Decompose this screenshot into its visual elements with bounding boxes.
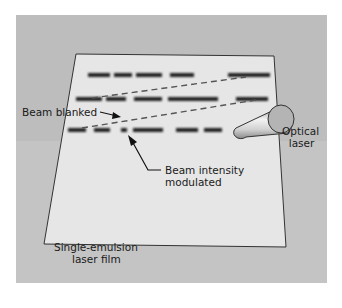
laser-film-diagram [0, 0, 342, 308]
optical-laser-label-line1: Optical [282, 125, 319, 137]
scan-line-1 [88, 73, 270, 77]
laser-film-label-line1: Single-emulsion [54, 241, 138, 253]
beam-blanked-label: Beam blanked [22, 106, 97, 118]
laser-film-label-line2: laser film [54, 253, 138, 265]
beam-intensity-label-line1: Beam intensity [165, 164, 244, 176]
optical-laser-label-line2: laser [282, 137, 319, 149]
laser-film-sheet [44, 54, 286, 247]
beam-intensity-label-line2: modulated [165, 176, 244, 188]
beam-intensity-label: Beam intensity modulated [165, 164, 244, 188]
optical-laser-label: Optical laser [282, 125, 319, 149]
laser-film-label: Single-emulsion laser film [54, 241, 138, 265]
